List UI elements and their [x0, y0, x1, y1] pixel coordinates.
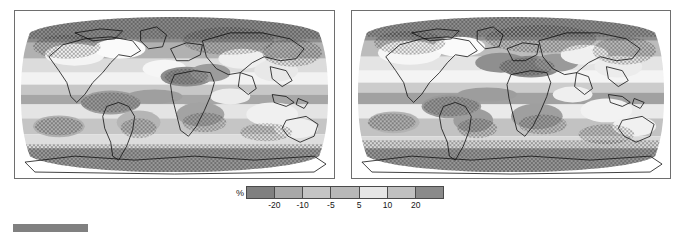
colorbar-segment-1: [275, 187, 303, 198]
colorbar-segment-2: [303, 187, 331, 198]
colorbar-segment-0: [247, 187, 275, 198]
colorbar-segment-3: [331, 187, 359, 198]
colorbar-segment-6: [416, 187, 443, 198]
map-svg-right: [352, 11, 670, 178]
colorbar-tick-0: -20: [268, 200, 280, 211]
colorbar-tick-3: 5: [357, 200, 362, 211]
colorbar-tick-4: 10: [383, 200, 392, 211]
colorbar-legend: % -20 -10 -5 5 10 20: [228, 185, 458, 219]
caption-rule-bar: [13, 224, 88, 232]
map-data-layer-left: [15, 11, 334, 178]
colorbar-unit-label: %: [228, 188, 244, 199]
colorbar-segment-5: [388, 187, 416, 198]
map-data-layer-right: [352, 11, 670, 178]
colorbar-swatches: [246, 186, 444, 199]
map-svg-left: [15, 11, 334, 178]
map-panel-left: [14, 10, 335, 179]
colorbar-segment-4: [360, 187, 388, 198]
colorbar-tick-labels: -20 -10 -5 5 10 20: [246, 200, 444, 214]
figure-root: % -20 -10 -5 5 10 20: [0, 0, 685, 234]
map-panel-right: [351, 10, 671, 179]
colorbar-tick-2: -5: [327, 200, 335, 211]
colorbar-tick-1: -10: [296, 200, 308, 211]
colorbar-tick-5: 20: [411, 200, 420, 211]
